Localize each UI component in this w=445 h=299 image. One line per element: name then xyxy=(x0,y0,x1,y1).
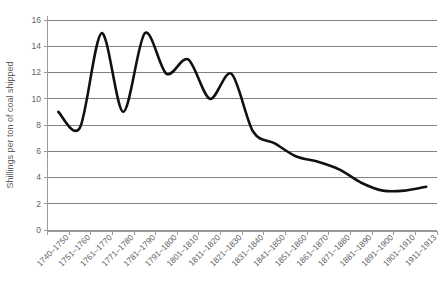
y-tick-label: 6 xyxy=(36,146,41,156)
gridlines xyxy=(48,20,438,230)
y-tick-label: 10 xyxy=(32,94,42,104)
y-tick-label: 8 xyxy=(36,120,41,130)
y-tick-label: 4 xyxy=(36,172,41,182)
y-tick-label: 14 xyxy=(32,41,42,51)
y-axis-title: Shillings per ton of coal shipped xyxy=(5,61,15,188)
y-tick-label: 12 xyxy=(32,67,42,77)
y-tick-label: 16 xyxy=(32,15,42,25)
x-axis-tick-labels: 1740–17501751–17601761–17701771–17801781… xyxy=(35,233,439,269)
y-axis-tick-labels: 0246810121416 xyxy=(32,15,42,235)
data-series-line xyxy=(58,33,426,192)
chart-canvas: 0246810121416 1740–17501751–17601761–177… xyxy=(0,0,445,299)
y-tick-label: 0 xyxy=(36,225,41,235)
coal-freight-rate-chart: 0246810121416 1740–17501751–17601761–177… xyxy=(0,0,445,299)
y-tick-label: 2 xyxy=(36,199,41,209)
